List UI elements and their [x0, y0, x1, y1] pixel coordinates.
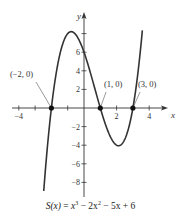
point-label: (1, 0) — [104, 79, 123, 89]
intercept-point — [130, 105, 135, 110]
y-tick-label: −6 — [71, 160, 80, 169]
function-curve — [44, 30, 143, 191]
intercept-point — [98, 105, 103, 110]
function-plot: −424642−2−4−6−8 (−2, 0)(1, 0)(3, 0) x y — [0, 0, 181, 217]
intercept-point — [49, 105, 54, 110]
y-tick-label: −2 — [71, 123, 80, 132]
point-label: (3, 0) — [138, 79, 157, 89]
axes — [12, 12, 168, 197]
y-tick-label: 4 — [76, 67, 80, 76]
x-tick-label: 4 — [147, 112, 151, 121]
y-axis-label: y — [76, 11, 81, 21]
y-tick-label: 6 — [76, 48, 80, 57]
point-leader-line — [36, 82, 51, 108]
point-label: (−2, 0) — [10, 69, 33, 79]
caption-term2: − 2x — [78, 201, 98, 211]
y-tick-label: −8 — [71, 178, 80, 187]
caption-lhs: S(x) — [46, 201, 61, 211]
function-caption: S(x) = x3 − 2x2 − 5x + 6 — [0, 200, 181, 211]
x-axis-label: x — [170, 110, 175, 120]
y-tick-label: −4 — [71, 141, 80, 150]
x-tick-label: −4 — [15, 112, 24, 121]
y-tick-label: 2 — [76, 85, 80, 94]
caption-term3: − 5x + 6 — [101, 201, 135, 211]
x-tick-label: 2 — [115, 112, 119, 121]
